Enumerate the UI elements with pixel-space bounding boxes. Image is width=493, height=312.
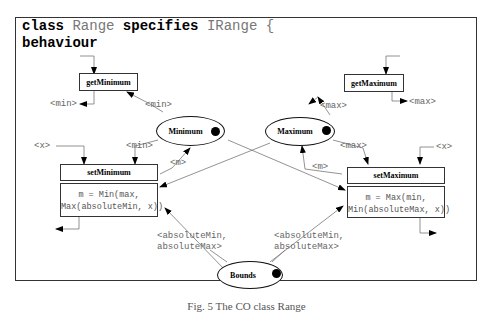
get-maximum-operation: getMaximum [344, 74, 404, 92]
bounds-label-line-1: <absoluteMin, [157, 231, 227, 242]
bounds-label-line-2: absoluteMax> [157, 242, 227, 253]
bounds-state-marker-icon [272, 269, 281, 278]
get-minimum-operation: getMinimum [79, 73, 138, 91]
minimum-state-marker-icon [211, 127, 220, 136]
set-maximum-code-line-2: Min(absoluteMax, x)) [348, 204, 444, 216]
bounds-label-line-2: absoluteMax> [274, 242, 344, 253]
set-minimum-operation: setMinimum [60, 164, 158, 181]
maximum-to-get-label: <max> [320, 101, 347, 112]
set-minimum-x-label: <x> [34, 141, 50, 152]
set-maximum-m-label: <m> [312, 162, 328, 173]
bounds-to-set-minimum-label: <absoluteMin, absoluteMax> [157, 231, 227, 253]
bounds-to-set-maximum-label: <absoluteMin, absoluteMax> [274, 231, 344, 253]
get-maximum-output-label: <max> [409, 97, 436, 108]
set-maximum-x-label: <x> [436, 142, 452, 153]
get-minimum-output-label: <min> [50, 99, 77, 110]
minimum-to-get-label: <min> [145, 100, 172, 111]
bounds-state-label: Bounds [230, 271, 256, 280]
set-minimum-code-line-2: Max(absoluteMin, x)) [61, 201, 157, 213]
set-minimum-m-label: <m> [170, 158, 186, 169]
set-minimum-min-label: <min> [126, 141, 153, 152]
maximum-state-marker-icon [322, 126, 331, 135]
set-maximum-code-line-1: m = Max(min, [348, 192, 444, 204]
set-minimum-code-line-1: m = Min(max, [61, 189, 157, 201]
bounds-label-line-1: <absoluteMin, [274, 231, 344, 242]
maximum-state-label: Maximum [277, 127, 313, 136]
figure-caption: Fig. 5 The CO class Range [0, 300, 493, 312]
minimum-state-label: Minimum [168, 127, 202, 136]
set-maximum-operation: setMaximum [347, 167, 445, 184]
set-minimum-body: m = Min(max, Max(absoluteMin, x)) [60, 183, 158, 217]
set-maximum-body: m = Max(min, Min(absoluteMax, x)) [347, 186, 445, 218]
set-maximum-max-label: <max> [340, 141, 367, 152]
